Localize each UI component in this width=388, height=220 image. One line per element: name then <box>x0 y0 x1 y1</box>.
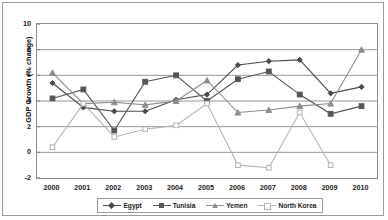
x-tick-2000: 2000 <box>36 183 66 192</box>
chart-frame: GDP Growth (% change) 1086420-2 20002001… <box>2 2 384 216</box>
series-layer <box>37 24 377 178</box>
x-tick-2005: 2005 <box>191 183 221 192</box>
x-tick-2006: 2006 <box>222 183 252 192</box>
legend-item-egypt[interactable]: Egypt <box>103 202 141 209</box>
y-tick--2: -2 <box>15 173 31 182</box>
legend-label: Egypt <box>123 202 141 209</box>
plot-area <box>36 23 378 179</box>
x-tick-2003: 2003 <box>129 183 159 192</box>
legend-marker-triangle-icon <box>206 202 224 209</box>
legend-marker-diamond-icon <box>103 202 121 209</box>
legend-item-north-korea[interactable]: North Korea <box>258 202 316 209</box>
series-north-korea <box>50 101 333 170</box>
x-tick-2001: 2001 <box>67 183 97 192</box>
y-tick-2: 2 <box>15 122 31 131</box>
x-tick-2002: 2002 <box>98 183 128 192</box>
legend-marker-open-square-icon <box>258 202 276 209</box>
legend-label: Yemen <box>226 202 247 209</box>
x-tick-2004: 2004 <box>160 183 190 192</box>
chart-canvas: GDP Growth (% change) 1086420-2 20002001… <box>3 3 385 217</box>
y-tick-6: 6 <box>15 70 31 79</box>
y-tick-4: 4 <box>15 96 31 105</box>
x-tick-2008: 2008 <box>284 183 314 192</box>
legend-item-yemen[interactable]: Yemen <box>206 202 247 209</box>
chart-legend: EgyptTunisiaYemenNorth Korea <box>97 198 323 213</box>
x-tick-2007: 2007 <box>253 183 283 192</box>
x-tick-2010: 2010 <box>346 183 376 192</box>
legend-label: North Korea <box>278 202 316 209</box>
y-tick-0: 0 <box>15 147 31 156</box>
x-tick-2009: 2009 <box>315 183 345 192</box>
legend-marker-square-icon <box>153 202 171 209</box>
y-tick-10: 10 <box>15 19 31 28</box>
y-tick-8: 8 <box>15 45 31 54</box>
legend-item-tunisia[interactable]: Tunisia <box>153 202 196 209</box>
legend-label: Tunisia <box>173 202 196 209</box>
